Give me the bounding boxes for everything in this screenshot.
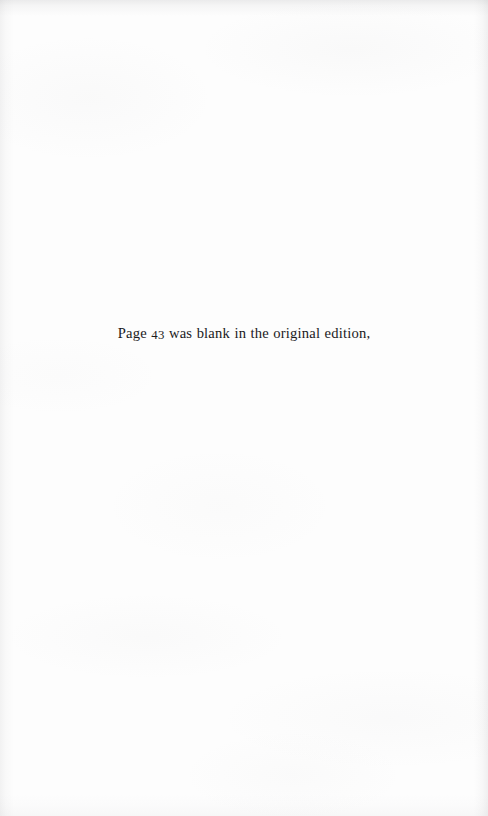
note-text-after-number: was blank in the original edition, <box>165 325 371 341</box>
note-page-number: 43 <box>151 328 164 342</box>
scanned-page: Page 43 was blank in the original editio… <box>0 0 488 816</box>
blank-page-note: Page 43 was blank in the original editio… <box>118 326 370 341</box>
page-text-area: Page 43 was blank in the original editio… <box>0 0 488 816</box>
note-text-before-number: Page <box>118 325 152 341</box>
